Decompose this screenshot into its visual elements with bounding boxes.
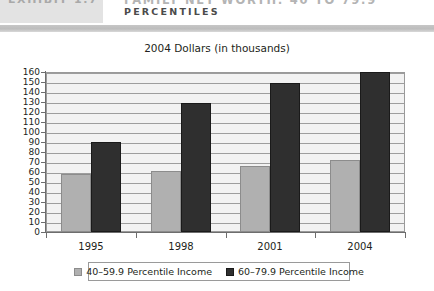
y-axis-tick <box>41 102 46 103</box>
gridline <box>47 103 404 104</box>
legend-item: 40–59.9 Percentile Income <box>74 266 212 277</box>
y-axis-tick-label: 80 <box>16 148 40 157</box>
y-axis-tick-label: 20 <box>16 208 40 217</box>
x-axis-tick-label: 1995 <box>61 241 121 252</box>
x-axis-tick-label: 2001 <box>240 241 300 252</box>
page-header: EXHIBIT 1.7 FAMILY NET WORTH: 40 TO 79.9… <box>0 0 434 33</box>
bar <box>61 174 91 232</box>
legend-swatch-icon <box>226 268 234 276</box>
y-axis-tick-label: 160 <box>16 68 40 77</box>
y-axis-tick <box>41 92 46 93</box>
y-axis-tick-label: 110 <box>16 118 40 127</box>
chart-page: EXHIBIT 1.7 FAMILY NET WORTH: 40 TO 79.9… <box>0 0 434 291</box>
y-axis-tick-label: 150 <box>16 78 40 87</box>
y-axis-tick <box>41 142 46 143</box>
gridline <box>47 73 404 74</box>
legend-label: 40–59.9 Percentile Income <box>86 266 212 277</box>
gridline <box>47 83 404 84</box>
y-axis-tick-label: 100 <box>16 128 40 137</box>
bar <box>91 142 121 232</box>
y-axis-tick <box>41 182 46 183</box>
y-axis-tick-label: 40 <box>16 188 40 197</box>
chart-legend: 40–59.9 Percentile Income60–79.9 Percent… <box>88 262 350 281</box>
y-axis-tick-label: 70 <box>16 158 40 167</box>
gridline <box>47 93 404 94</box>
legend-item: 60–79.9 Percentile Income <box>226 266 364 277</box>
y-axis-tick <box>41 212 46 213</box>
gridline <box>47 123 404 124</box>
bar <box>360 72 390 232</box>
header-title-line2: PERCENTILES <box>124 6 220 17</box>
y-axis-tick <box>41 192 46 193</box>
x-axis-tick <box>226 233 227 238</box>
y-axis-tick-label: 50 <box>16 178 40 187</box>
y-axis-tick <box>41 162 46 163</box>
y-axis-tick-label: 90 <box>16 138 40 147</box>
y-axis-tick-label: 0 <box>16 228 40 237</box>
y-axis-tick-label: 30 <box>16 198 40 207</box>
y-axis-tick <box>41 222 46 223</box>
gridline <box>47 133 404 134</box>
y-axis-tick <box>41 112 46 113</box>
x-axis-tick <box>46 233 47 238</box>
x-axis-tick-label: 1998 <box>151 241 211 252</box>
y-axis-tick-label: 60 <box>16 168 40 177</box>
bar <box>181 103 211 232</box>
x-axis-tick <box>136 233 137 238</box>
y-axis-tick <box>41 152 46 153</box>
bar <box>330 160 360 232</box>
x-axis-tick-label: 2004 <box>330 241 390 252</box>
y-axis-tick <box>41 202 46 203</box>
bar <box>270 83 300 232</box>
y-axis-tick <box>41 72 46 73</box>
y-axis-tick <box>41 122 46 123</box>
y-axis-tick <box>41 172 46 173</box>
chart-title: 2004 Dollars (in thousands) <box>0 42 434 54</box>
y-axis-tick-label: 10 <box>16 218 40 227</box>
y-axis-tick-label: 120 <box>16 108 40 117</box>
x-axis-tick <box>315 233 316 238</box>
y-axis-tick-label: 140 <box>16 88 40 97</box>
gridline <box>47 113 404 114</box>
y-axis-tick <box>41 132 46 133</box>
y-axis-tick <box>41 82 46 83</box>
legend-label: 60–79.9 Percentile Income <box>238 266 364 277</box>
header-divider <box>0 25 434 32</box>
legend-swatch-icon <box>74 268 82 276</box>
y-axis-tick-label: 130 <box>16 98 40 107</box>
x-axis-tick <box>405 233 406 238</box>
bar <box>240 166 270 232</box>
y-axis-labels: 0102030405060708090100110120130140150160 <box>12 0 40 291</box>
bar <box>151 171 181 232</box>
